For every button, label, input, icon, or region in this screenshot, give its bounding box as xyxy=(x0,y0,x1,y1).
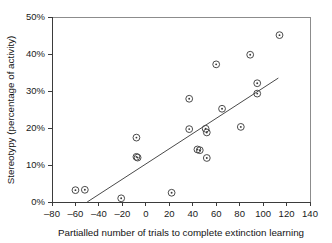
data-point xyxy=(168,189,175,196)
data-point-center-dot xyxy=(137,157,139,159)
data-point xyxy=(254,80,261,87)
x-tick-label: 60 xyxy=(211,208,222,219)
x-tick-label: –20 xyxy=(114,208,130,219)
y-tick-label: 40% xyxy=(26,48,46,59)
x-tick-label: 80 xyxy=(234,208,245,219)
data-point xyxy=(219,105,226,112)
data-points xyxy=(72,32,283,202)
y-tick-label: 30% xyxy=(26,85,46,96)
data-point xyxy=(237,123,244,130)
data-point xyxy=(247,51,254,58)
data-point-center-dot xyxy=(188,128,190,130)
y-tick-label: 10% xyxy=(26,159,46,170)
y-tick-label: 0% xyxy=(31,196,45,207)
x-tick-label: 0 xyxy=(143,208,148,219)
x-tick-label: 120 xyxy=(279,208,295,219)
x-tick-label: –60 xyxy=(68,208,84,219)
y-axis-title: Stereotypy (percentage of activity) xyxy=(5,36,16,185)
scatter-plot-figure: 0%10%20%30%40%50% –80–60–40–200204060801… xyxy=(0,0,332,243)
data-point-center-dot xyxy=(256,93,258,95)
data-point-center-dot xyxy=(279,34,281,36)
x-tick-label: –80 xyxy=(44,208,60,219)
data-point-center-dot xyxy=(171,192,173,194)
x-axis-title: Partialled number of trials to complete … xyxy=(58,227,304,238)
y-axis-ticks: 0%10%20%30%40%50% xyxy=(26,11,52,207)
x-tick-label: 20 xyxy=(164,208,175,219)
data-point xyxy=(133,134,140,141)
data-point-center-dot xyxy=(199,149,201,151)
data-point-center-dot xyxy=(206,131,208,133)
data-point-center-dot xyxy=(221,108,223,110)
regression-line-segment xyxy=(87,78,278,202)
x-axis-ticks: –80–60–40–20020406080100120140 xyxy=(44,202,318,219)
data-point-center-dot xyxy=(240,126,242,128)
data-point-center-dot xyxy=(256,82,258,84)
data-point-center-dot xyxy=(84,189,86,191)
data-point xyxy=(276,32,283,39)
data-point-center-dot xyxy=(75,189,77,191)
x-tick-label: 100 xyxy=(255,208,271,219)
data-point xyxy=(203,155,210,162)
data-point-center-dot xyxy=(135,137,137,139)
x-tick-label: 40 xyxy=(187,208,198,219)
data-point xyxy=(186,95,193,102)
data-point-center-dot xyxy=(206,157,208,159)
data-point xyxy=(186,126,193,133)
regression-line xyxy=(87,78,278,202)
x-tick-label: 140 xyxy=(302,208,318,219)
y-tick-label: 50% xyxy=(26,11,46,22)
y-tick-label: 20% xyxy=(26,122,46,133)
plot-frame xyxy=(52,17,310,202)
x-tick-label: –40 xyxy=(91,208,107,219)
data-point-center-dot xyxy=(249,54,251,56)
data-point xyxy=(118,195,125,202)
data-point xyxy=(72,187,79,194)
data-point xyxy=(213,61,220,68)
data-point-center-dot xyxy=(215,63,217,65)
data-point xyxy=(81,186,88,193)
data-point-center-dot xyxy=(120,197,122,199)
data-point-center-dot xyxy=(188,98,190,100)
plot-canvas: 0%10%20%30%40%50% –80–60–40–200204060801… xyxy=(0,0,332,243)
